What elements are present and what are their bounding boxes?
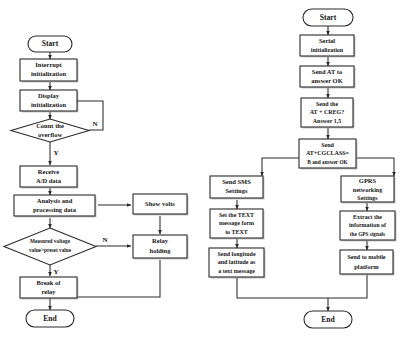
right-sendpos-line2: and latitude as: [218, 259, 256, 265]
right-node-send-at: Send AT to answer OK: [300, 66, 356, 89]
right-node-set-text-mode: Set the TEXT message form to TEXT: [210, 209, 265, 240]
left-node-break-of-relay: Break of relay: [20, 277, 79, 300]
right-cgclass-line2: AT+CGCLASS=: [306, 150, 350, 156]
left-break-line1: Break of: [37, 279, 62, 286]
left-node-measured-voltage-decision: Measured voltage value>preset value: [4, 228, 96, 265]
left-node-interrupt-initialization: Interrupt initialization: [20, 59, 79, 83]
left-relay-line1: Relay: [152, 237, 169, 244]
right-gprs-line3: Settings: [357, 195, 378, 201]
left-analysis-line1: Analysis and: [37, 197, 73, 204]
right-sendat-line1: Send AT to: [312, 68, 342, 75]
flowchart-canvas: Start Interrupt initialization Display i…: [0, 0, 408, 341]
left-showvolts-label: Show volts: [145, 200, 175, 207]
right-node-serial-initialization: Serial initialization: [300, 35, 356, 58]
right-node-send-coordinates-sms: Send longitude and latitude as a text me…: [209, 248, 266, 279]
right-node-start: Start: [303, 9, 353, 26]
right-end-label: End: [321, 315, 335, 324]
left-node-show-volts: Show volts: [133, 194, 189, 216]
left-node-start: Start: [28, 36, 72, 52]
right-text-line3: to TEXT: [225, 229, 248, 235]
right-gprs-line1: GPRS: [359, 177, 377, 184]
left-count-line1: Count the: [36, 122, 64, 129]
right-sms-line2: Settings: [225, 187, 248, 194]
left-break-line2: relay: [42, 288, 57, 295]
right-node-send-creg: Send the AT + CREG? Answer 1,5: [301, 98, 355, 129]
left-branch-measured-yes: Y: [53, 268, 58, 276]
left-interrupt-line1: Interrupt: [35, 61, 62, 68]
right-node-send-sms-settings: Send SMS Settings: [210, 176, 265, 200]
left-branch-count-yes: Y: [53, 149, 58, 157]
right-node-end: End: [304, 311, 352, 328]
right-serial-line1: Serial: [319, 37, 335, 44]
left-display-line1: Display: [38, 92, 60, 99]
left-measured-line2: value>preset value: [29, 247, 72, 253]
right-extract-line2: information of: [349, 222, 387, 228]
left-analysis-line2: processing data: [33, 206, 77, 213]
left-measured-line1: Measured voltage: [30, 238, 71, 244]
left-receive-line2: A/D data: [36, 177, 62, 184]
left-node-end: End: [26, 310, 74, 327]
right-start-label: Start: [320, 13, 337, 22]
left-receive-line1: Receive: [38, 168, 59, 175]
right-cgclass-line1: Send: [321, 142, 334, 148]
left-flowchart: Start Interrupt initialization Display i…: [4, 36, 189, 327]
right-mobile-line1: Send to mobile: [347, 254, 385, 260]
left-node-count-overflow-decision: Count the overflow: [11, 119, 89, 142]
left-node-analysis-processing-data: Analysis and processing data: [14, 195, 97, 218]
right-gprs-line2: networking: [353, 187, 382, 193]
left-branch-count-no: N: [92, 120, 97, 128]
right-text-line1: Set the TEXT: [219, 212, 254, 218]
left-start-label: Start: [42, 39, 59, 48]
left-node-receive-ad-data: Receive A/D data: [20, 166, 79, 189]
right-node-send-cgclass: Send AT+CGCLASS= B and answer OK: [299, 139, 358, 170]
left-branch-measured-no: N: [102, 236, 107, 244]
right-node-send-to-mobile-platform: Send to mobile platform: [340, 250, 395, 276]
right-sendpos-line1: Send longitude: [217, 251, 256, 257]
right-node-extract-gps-info: Extract the information of the GPS signa…: [340, 211, 397, 242]
right-mobile-line2: platform: [354, 263, 379, 270]
right-extract-line1: Extract the: [353, 214, 382, 220]
left-node-relay-holding: Relay holding: [133, 235, 189, 260]
right-node-gprs-networking-settings: GPRS networking Settings: [341, 176, 396, 204]
right-serial-line2: initialization: [311, 47, 344, 53]
left-relay-line2: holding: [150, 247, 172, 254]
right-flowchart: Start Serial initialization Send AT to a…: [209, 9, 397, 328]
right-creg-line2: AT + CREG?: [310, 109, 345, 115]
left-node-display-initialization: Display initialization: [20, 90, 79, 113]
right-sendat-line2: answer OK: [311, 77, 342, 84]
flowchart-figure: Start Interrupt initialization Display i…: [0, 0, 408, 341]
right-sendpos-line3: a text message: [218, 268, 255, 274]
left-end-label: End: [43, 314, 57, 323]
left-interrupt-line2: initialization: [31, 70, 66, 77]
right-creg-line1: Send the: [316, 101, 339, 107]
left-display-line2: initialization: [31, 101, 66, 108]
right-cgclass-line3: B and answer OK: [307, 159, 348, 165]
right-creg-line3: Answer 1,5: [313, 118, 342, 124]
right-sms-line1: Send SMS: [222, 178, 251, 185]
right-extract-line3: the GPS signals: [350, 231, 385, 237]
left-count-line2: overflow: [38, 131, 62, 138]
right-text-line2: message form: [219, 220, 254, 226]
